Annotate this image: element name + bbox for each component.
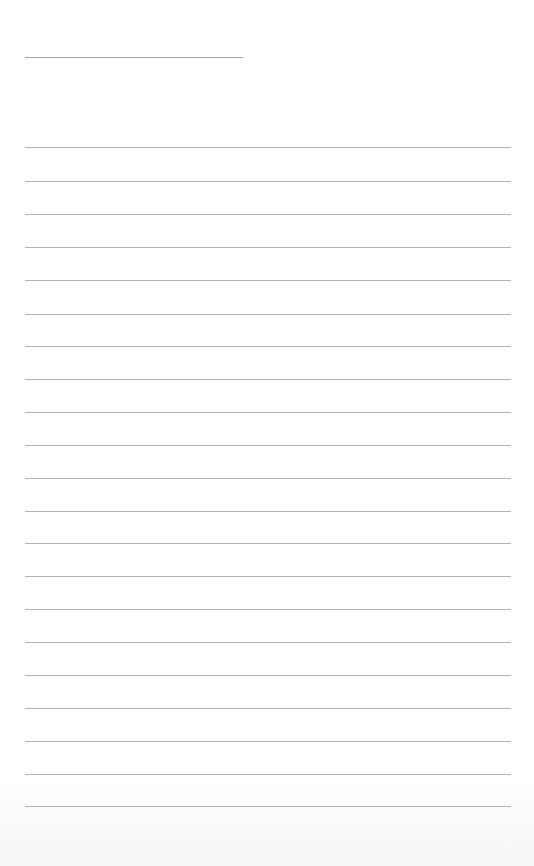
rule-line <box>25 280 511 281</box>
rule-line <box>25 675 511 676</box>
rule-line <box>25 346 511 347</box>
rule-line <box>25 247 511 248</box>
rule-line <box>25 511 511 512</box>
rule-line <box>25 147 511 148</box>
lined-paper-sheet <box>0 0 534 866</box>
rule-line <box>25 445 511 446</box>
rule-line <box>25 642 511 643</box>
rule-line <box>25 214 511 215</box>
rule-line <box>25 314 511 315</box>
rule-line <box>25 741 511 742</box>
rule-line <box>25 543 511 544</box>
rule-line <box>25 609 511 610</box>
rule-line <box>25 806 511 807</box>
rule-line <box>25 576 511 577</box>
rule-line <box>25 181 511 182</box>
rule-line <box>25 412 511 413</box>
title-line <box>25 57 243 58</box>
rule-line <box>25 478 511 479</box>
rule-line <box>25 708 511 709</box>
rule-line <box>25 379 511 380</box>
rule-line <box>25 774 511 775</box>
